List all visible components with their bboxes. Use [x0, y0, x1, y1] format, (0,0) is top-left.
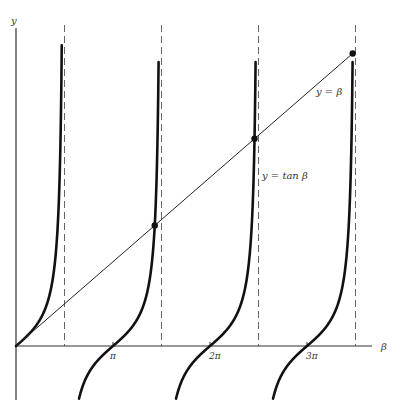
x-axis-label: β: [380, 341, 387, 352]
intersection-dot: [251, 136, 257, 142]
tan-branch: [16, 45, 62, 346]
tick-label-3pi: 3π: [306, 351, 319, 361]
tick-label-2pi: 2π: [208, 351, 222, 361]
identity-line: [16, 53, 353, 346]
tan-curve-label: y = tan β: [261, 170, 308, 181]
tan-beta-chart: y β y = β y = tan β π 2π 3π: [0, 0, 405, 412]
tan-branch: [79, 62, 159, 399]
y-axis-label: y: [10, 15, 17, 26]
asymptote-lines: [65, 25, 356, 346]
tan-branch: [176, 62, 256, 399]
intersection-dot: [152, 222, 158, 228]
identity-line-label: y = β: [315, 86, 342, 97]
intersection-dot: [349, 50, 355, 56]
tick-label-pi: π: [109, 351, 117, 361]
